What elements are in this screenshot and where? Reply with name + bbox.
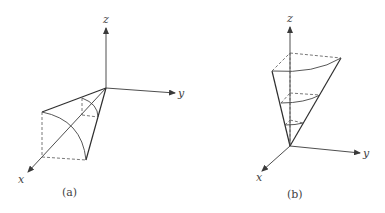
y-axis-b: [290, 146, 360, 153]
dash-top-right-b: [290, 53, 341, 58]
edge-left-b: [272, 71, 290, 146]
caption-b: (b): [287, 188, 303, 201]
panel-b: z y x (b): [256, 12, 370, 201]
dash-top-left-b: [272, 53, 290, 71]
z-label-b: z: [286, 12, 293, 25]
dash-mid-right-b: [290, 93, 320, 95]
edge-top-a: [42, 88, 106, 112]
arc-top-b: [272, 58, 341, 71]
figure: z y x (a): [0, 0, 385, 213]
caption-a: (a): [62, 186, 77, 199]
y-axis-a: [106, 88, 175, 93]
y-label-b: y: [362, 147, 370, 160]
x-axis-b: [262, 146, 290, 171]
arc-low-b: [285, 123, 303, 125]
dash-mid-left-b: [281, 93, 290, 103]
dash-low-left-b: [285, 120, 290, 125]
arc-large-a: [42, 112, 86, 160]
diagram-canvas: z y x (a): [0, 0, 385, 213]
dash-low-right-b: [290, 120, 303, 123]
y-label-a: y: [177, 87, 185, 100]
x-label-a: x: [18, 173, 25, 186]
arc-mid-b: [281, 95, 320, 103]
x-label-b: x: [256, 171, 263, 184]
z-label-a: z: [102, 13, 109, 26]
dash-bottom-a: [42, 157, 86, 160]
panel-a: z y x (a): [18, 13, 185, 199]
arc-small-a: [82, 98, 98, 117]
dash-inner-horizontal-a: [82, 115, 98, 117]
